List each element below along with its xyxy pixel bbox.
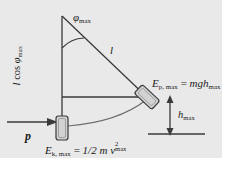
ek-velocity-subscript: max — [115, 146, 126, 153]
height-double-arrow — [167, 95, 174, 136]
ep-rhs-subscript: max — [209, 83, 221, 90]
ek-fraction: 1/2 — [83, 144, 97, 156]
ek-mass: m — [99, 144, 107, 156]
projection-subscript: max — [16, 46, 23, 58]
ep-rhs: mgh — [190, 77, 209, 89]
momentum-arrow — [7, 118, 58, 126]
vertical-projection-label: l cos φmax — [12, 34, 23, 98]
height-subscript: max — [183, 114, 195, 121]
swing-path-arc — [68, 100, 146, 126]
ek-velocity-indices: 2max — [115, 143, 125, 154]
angle-label: φmax — [73, 12, 91, 25]
pendulum-energy-figure: φmax l cos φmax l Ep, max = mghmax hmax … — [0, 0, 238, 172]
projection-operator: cos — [11, 66, 22, 80]
height-label: hmax — [178, 110, 195, 121]
ek-symbol: E — [45, 144, 52, 156]
ep-subscript: p, max — [159, 83, 178, 90]
kinetic-energy-label: Ek, max = 1/2 m v2max — [45, 143, 125, 158]
ek-subscript: k, max — [52, 150, 71, 157]
potential-energy-label: Ep, max = mghmax — [152, 78, 221, 91]
angle-subscript: max — [79, 17, 91, 24]
projection-symbol: φ — [11, 57, 22, 63]
pendulum-bob-lowest — [56, 116, 68, 140]
angle-arc — [62, 38, 84, 48]
projection-prefix: l — [11, 82, 22, 85]
ep-equals: = — [181, 77, 187, 89]
momentum-label: p — [25, 130, 31, 142]
ek-equals: = — [74, 144, 80, 156]
string-length-label: l — [110, 45, 113, 56]
ep-symbol: E — [152, 77, 159, 89]
